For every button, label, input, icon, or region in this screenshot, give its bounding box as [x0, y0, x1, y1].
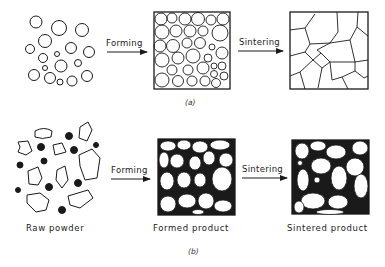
sintering-label-a: Sintering: [239, 37, 280, 47]
caption-a: (a): [185, 98, 195, 107]
forming-label-b: Forming: [111, 165, 148, 175]
polygonal-grains: [290, 12, 368, 89]
loose-spheres: [26, 16, 95, 86]
raw-powder-label: Raw powder: [26, 223, 84, 233]
formed-product-label: Formed product: [153, 223, 229, 233]
forming-label-a: Forming: [106, 38, 143, 48]
sintering-label-b: Sintering: [242, 164, 283, 174]
sintered-product-label: Sintered product: [287, 223, 368, 233]
sintered-product: [292, 140, 369, 215]
formed-product: [158, 139, 235, 215]
raw-powder: [16, 122, 101, 214]
packed-spheres: [154, 12, 230, 89]
caption-b: (b): [188, 247, 199, 256]
